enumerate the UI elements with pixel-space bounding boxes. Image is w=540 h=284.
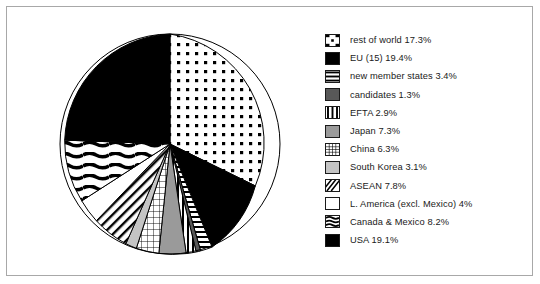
legend-label: new member states 3.4% <box>350 71 457 81</box>
light-gray-swatch <box>325 161 340 174</box>
legend-label: candidates 1.3% <box>350 90 420 100</box>
wavy-bands-swatch <box>325 215 340 228</box>
medium-gray-swatch <box>325 125 340 138</box>
legend-item-rest-of-world[interactable]: rest of world 17.3% <box>325 31 531 49</box>
legend-item-new-member-states[interactable]: new member states 3.4% <box>325 67 531 85</box>
diagonal-hatch-swatch <box>325 179 340 192</box>
chart-legend: rest of world 17.3% EU (15) 19.4% new me… <box>325 31 531 249</box>
legend-item-eu-15[interactable]: EU (15) 19.4% <box>325 49 531 67</box>
legend-label: rest of world 17.3% <box>350 35 431 45</box>
chart-frame: rest of world 17.3% EU (15) 19.4% new me… <box>6 6 533 276</box>
legend-label: Japan 7.3% <box>350 126 400 136</box>
legend-item-efta[interactable]: EFTA 2.9% <box>325 104 531 122</box>
pie-chart-svg <box>57 31 283 257</box>
legend-item-candidates[interactable]: candidates 1.3% <box>325 86 531 104</box>
legend-label: Canada & Mexico 8.2% <box>350 217 449 227</box>
pie-chart <box>57 31 283 257</box>
legend-item-south-korea[interactable]: South Korea 3.1% <box>325 158 531 176</box>
legend-label: China 6.3% <box>350 144 399 154</box>
legend-item-china[interactable]: China 6.3% <box>325 140 531 158</box>
grid-swatch <box>325 143 340 156</box>
legend-label: EU (15) 19.4% <box>350 53 412 63</box>
legend-label: ASEAN 7.8% <box>350 181 406 191</box>
pie-slices <box>65 34 264 254</box>
legend-item-asean[interactable]: ASEAN 7.8% <box>325 177 531 195</box>
dots-swatch <box>325 34 340 47</box>
legend-item-canada-mexico[interactable]: Canada & Mexico 8.2% <box>325 213 531 231</box>
legend-label: L. America (excl. Mexico) 4% <box>350 199 472 209</box>
horizontal-lines-swatch <box>325 70 340 83</box>
solid-black-swatch <box>325 52 340 65</box>
legend-item-usa[interactable]: USA 19.1% <box>325 231 531 249</box>
legend-label: South Korea 3.1% <box>350 162 427 172</box>
legend-label: EFTA 2.9% <box>350 108 397 118</box>
vertical-lines-swatch <box>325 106 340 119</box>
blank-swatch <box>325 197 340 210</box>
legend-item-l-america[interactable]: L. America (excl. Mexico) 4% <box>325 195 531 213</box>
pie-slice-usa <box>65 34 170 144</box>
legend-item-japan[interactable]: Japan 7.3% <box>325 122 531 140</box>
solid-black-swatch <box>325 234 340 247</box>
legend-label: USA 19.1% <box>350 235 398 245</box>
dark-gray-swatch <box>325 88 340 101</box>
